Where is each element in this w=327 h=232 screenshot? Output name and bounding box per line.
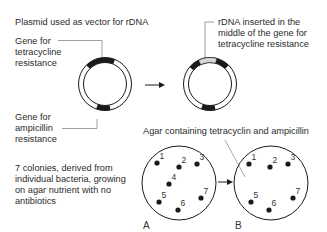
colony-6 xyxy=(175,207,180,212)
colony-number: 1 xyxy=(160,151,165,161)
colony-number: 3 xyxy=(200,152,205,162)
colony-number: 2 xyxy=(182,155,187,165)
colony-number: 5 xyxy=(162,190,167,200)
svg-text:individual bacteria, growing: individual bacteria, growing xyxy=(15,174,126,184)
colony-1 xyxy=(154,160,159,165)
colony-number: 6 xyxy=(181,198,186,208)
amp-leader-line xyxy=(62,119,97,129)
ampicillin-gene-label: Gene for ampicillin resistance xyxy=(15,112,97,144)
rdna-leader-line xyxy=(205,22,214,58)
rdna-insert-label: rDNA inserted in the middle of the gene … xyxy=(205,17,309,58)
colony-3 xyxy=(194,161,199,166)
colony-7 xyxy=(290,195,295,200)
colony-number: 2 xyxy=(273,155,278,165)
colony-4 xyxy=(166,181,171,186)
svg-text:rDNA inserted in the: rDNA inserted in the xyxy=(218,17,300,27)
svg-text:resistance: resistance xyxy=(15,134,57,144)
svg-text:Gene for: Gene for xyxy=(15,112,51,122)
agar-leader-line xyxy=(225,140,245,177)
colony-5 xyxy=(248,199,253,204)
recombinant-plasmid xyxy=(184,57,237,110)
colony-number: 6 xyxy=(272,198,277,208)
colony-number: 7 xyxy=(204,186,209,196)
svg-text:ampicillin: ampicillin xyxy=(15,123,53,133)
svg-text:tetracycline resistance: tetracycline resistance xyxy=(218,39,309,49)
colony-2 xyxy=(267,164,272,169)
plasmid-vector xyxy=(79,58,132,111)
tet-leader-line xyxy=(58,41,102,58)
colony-number: 1 xyxy=(252,152,257,162)
svg-text:middle of the gene for: middle of the gene for xyxy=(218,28,307,38)
svg-text:resistance: resistance xyxy=(15,58,57,68)
svg-text:antibiotics: antibiotics xyxy=(15,196,56,206)
colony-1 xyxy=(246,161,251,166)
colony-3 xyxy=(285,161,290,166)
colony-5 xyxy=(156,199,161,204)
arrow-icon xyxy=(218,179,233,185)
svg-text:7 colonies, derived from: 7 colonies, derived from xyxy=(15,163,113,173)
diagram-title: Plasmid used as vector for rDNA xyxy=(15,17,149,27)
colony-number: 5 xyxy=(254,190,259,200)
svg-text:on agar nutrient with no: on agar nutrient with no xyxy=(15,185,111,195)
dish-b-label: B xyxy=(235,220,242,231)
svg-text:Gene for: Gene for xyxy=(15,36,51,46)
colony-2 xyxy=(176,164,181,169)
rdna-plasmid-diagram: Plasmid used as vector for rDNA Gene for… xyxy=(0,0,327,232)
petri-dish-b: 123567 B xyxy=(234,146,308,231)
colony-6 xyxy=(266,207,271,212)
arrow-icon xyxy=(145,82,165,88)
dish-a-label: A xyxy=(143,220,150,231)
colony-number: 4 xyxy=(172,172,177,182)
colonies-description: 7 colonies, derived from individual bact… xyxy=(15,163,126,206)
colony-7 xyxy=(198,195,203,200)
petri-dish-a: 1234567 A xyxy=(142,146,216,231)
colony-number: 3 xyxy=(291,152,296,162)
svg-text:tetracycline: tetracycline xyxy=(15,47,61,57)
agar-label: Agar containing tetracyclin and ampicill… xyxy=(143,126,309,136)
colony-number: 7 xyxy=(296,186,301,196)
